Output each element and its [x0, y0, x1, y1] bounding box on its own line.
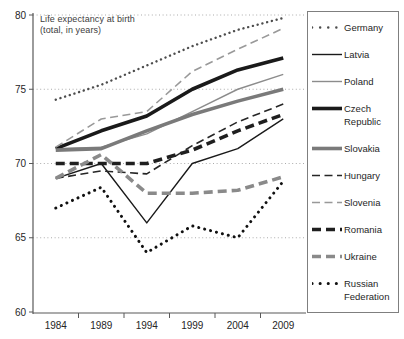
legend-marker-latvia-line — [312, 48, 342, 61]
legend-label-ukraine: Ukraine — [344, 250, 396, 263]
legend-item-romania: Romania — [312, 223, 396, 236]
x-axis-label-2009: 2009 — [272, 320, 295, 331]
legend-item-ukraine: Ukraine — [312, 250, 396, 263]
x-axis-label-1994: 1994 — [136, 320, 159, 331]
y-axis-label-80: 80 — [15, 10, 27, 21]
legend-item-latvia: Latvia — [312, 48, 396, 61]
legend-label-russian-federation: Russian Federation — [344, 277, 396, 303]
legend-label-czech-republic: Czech Republic — [344, 102, 396, 128]
y-axis-label-60: 60 — [15, 307, 27, 318]
legend-marker-romania-line — [312, 223, 342, 236]
legend-label-slovenia: Slovenia — [344, 196, 396, 209]
legend-marker-slovakia-line — [312, 142, 342, 155]
legend-label-germany: Germany — [344, 21, 396, 34]
chart-title-line1: Life expectancy at birth — [40, 14, 135, 25]
legend-item-hungary: Hungary — [312, 169, 396, 182]
legend-label-poland: Poland — [344, 75, 396, 88]
series-line-poland — [56, 74, 284, 148]
legend-marker-ukraine-line — [312, 250, 342, 263]
x-axis-label-1984: 1984 — [45, 320, 68, 331]
legend-item-czech-republic: Czech Republic — [312, 102, 396, 128]
series-line-slovenia — [56, 28, 284, 147]
legend-marker-slovenia-line — [312, 196, 342, 209]
legend-item-russian-federation: Russian Federation — [312, 277, 396, 303]
y-axis-label-75: 75 — [15, 84, 27, 95]
chart-title-line2: (total, in years) — [40, 25, 135, 36]
legend-marker-hungary-line — [312, 169, 342, 182]
x-axis-label-1999: 1999 — [181, 320, 204, 331]
legend-item-slovenia: Slovenia — [312, 196, 396, 209]
legend: GermanyLatviaPolandCzech RepublicSlovaki… — [307, 11, 399, 313]
y-axis-label-65: 65 — [15, 232, 27, 243]
legend-item-poland: Poland — [312, 75, 396, 88]
legend-marker-russian-federation-line — [312, 277, 342, 290]
legend-label-latvia: Latvia — [344, 48, 396, 61]
legend-marker-czech-republic-line — [312, 102, 342, 115]
legend-marker-poland-line — [312, 75, 342, 88]
legend-label-romania: Romania — [344, 223, 396, 236]
legend-label-slovakia: Slovakia — [344, 142, 396, 155]
line-chart: 8075706560198419891994199920042009 Life … — [0, 0, 404, 339]
legend-label-hungary: Hungary — [344, 169, 396, 182]
x-axis-label-2004: 2004 — [227, 320, 250, 331]
legend-item-germany: Germany — [312, 21, 396, 34]
legend-item-slovakia: Slovakia — [312, 142, 396, 155]
chart-title: Life expectancy at birth (total, in year… — [40, 14, 135, 36]
legend-marker-germany-line — [312, 21, 342, 34]
series-line-czech-republic — [56, 58, 284, 149]
x-axis-label-1989: 1989 — [90, 320, 113, 331]
y-axis-label-70: 70 — [15, 158, 27, 169]
